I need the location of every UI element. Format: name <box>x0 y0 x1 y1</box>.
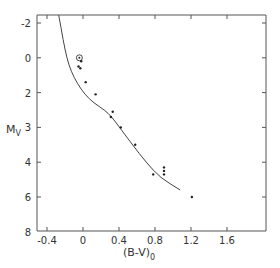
x-axis-label: (B-V)0 <box>123 246 155 262</box>
star-data-point <box>163 170 165 172</box>
y-tick-label: -2 <box>21 18 31 29</box>
y-tick-label: 2 <box>25 88 31 99</box>
star-data-point <box>120 126 122 128</box>
y-tick-label: 3 <box>25 122 31 133</box>
star-data-point <box>85 81 87 83</box>
plot-frame <box>37 15 266 231</box>
y-tick-label: 0 <box>25 53 31 64</box>
reference-sequence-line <box>59 15 181 190</box>
y-tick-label: 6 <box>25 192 31 203</box>
star-data-point <box>191 196 193 198</box>
y-axis-ticks: -2023468 <box>21 18 266 238</box>
y-tick-label: 4 <box>25 157 31 168</box>
x-tick-label: 1.2 <box>183 235 199 246</box>
star-data-point <box>163 166 165 168</box>
star-data-point <box>80 60 82 62</box>
x-tick-label: 1.6 <box>219 235 235 246</box>
star-data-point <box>112 111 114 113</box>
x-axis-ticks: -0.400.40.81.21.6 <box>37 15 235 246</box>
y-tick-label: 8 <box>25 227 31 238</box>
star-data-point <box>134 144 136 146</box>
x-tick-label: 0.8 <box>147 235 163 246</box>
star-data-point <box>77 65 79 67</box>
hr-diagram-chart: -0.400.40.81.21.6 -2023468 MV (B-V)0 <box>0 0 280 268</box>
star-data-point <box>163 173 165 175</box>
x-tick-label: -0.4 <box>37 235 57 246</box>
x-tick-label: 0.4 <box>111 235 127 246</box>
y-axis-label: MV <box>6 123 22 138</box>
star-data-point <box>110 116 112 118</box>
data-points <box>76 55 193 198</box>
x-tick-label: 0 <box>80 235 86 246</box>
star-data-point <box>152 173 154 175</box>
star-data-point <box>79 67 81 69</box>
star-data-point <box>94 93 96 95</box>
sun-center-dot <box>78 57 80 59</box>
